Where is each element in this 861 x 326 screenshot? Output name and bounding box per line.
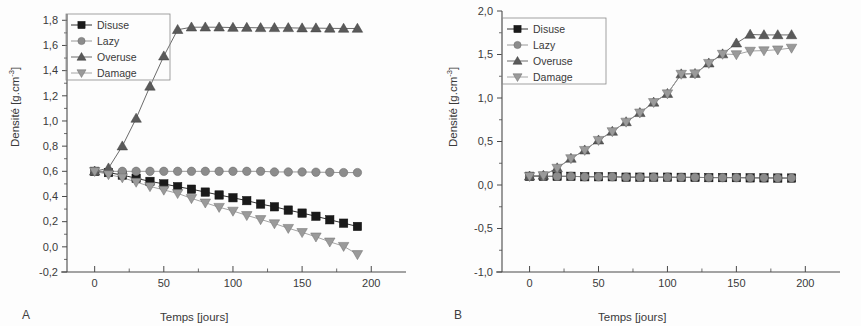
marker-triangle-down [759, 47, 770, 56]
x-tick-label: 50 [592, 277, 604, 289]
marker-circle [732, 173, 740, 181]
marker-circle [663, 173, 671, 181]
y-tick-label: 0,6 [43, 165, 58, 177]
y-tick-label: -0,2 [39, 266, 58, 278]
marker-triangle-down [352, 251, 363, 260]
marker-circle [636, 173, 644, 181]
y-tick-label: 0,8 [43, 140, 58, 152]
legend-label-lazy: Lazy [533, 39, 556, 51]
plot-area-a: -0,20,00,20,40,60,81,01,21,41,61,8050100… [0, 0, 430, 326]
marker-triangle-up [731, 38, 742, 47]
marker-triangle-up [283, 23, 294, 32]
marker-square [284, 206, 292, 214]
marker-circle [215, 167, 223, 175]
marker-triangle-up [145, 81, 156, 90]
marker-square [339, 219, 347, 227]
y-tick-label: -1,0 [474, 266, 493, 278]
marker-triangle-down [772, 46, 783, 55]
marker-square [187, 185, 195, 193]
x-axis-title-a: Temps [jours] [160, 311, 228, 323]
marker-triangle-up [772, 30, 783, 39]
marker-triangle-up [745, 29, 756, 38]
marker-triangle-up [228, 22, 239, 31]
marker-circle [774, 174, 782, 182]
x-tick-label: 50 [158, 277, 170, 289]
legend-label-damage: Damage [97, 67, 137, 79]
marker-triangle-down [311, 233, 322, 242]
marker-triangle-up [77, 53, 86, 61]
marker-circle [705, 173, 713, 181]
marker-circle [514, 41, 521, 48]
y-axis-title-a: Densité [g.cm-3] [7, 27, 21, 187]
marker-circle [760, 174, 768, 182]
y-axis-title-b: Densité [g.cm-3] [445, 27, 459, 187]
series-line-overuse [95, 27, 358, 171]
marker-triangle-down [269, 220, 280, 229]
legend-label-lazy: Lazy [97, 35, 120, 47]
x-tick-label: 200 [796, 277, 814, 289]
marker-square [298, 209, 306, 217]
y-tick-label: -0,5 [474, 222, 493, 234]
y-tick-label: 1,0 [43, 115, 58, 127]
x-tick-label: 150 [727, 277, 745, 289]
marker-square [201, 188, 209, 196]
marker-triangle-up [325, 23, 336, 32]
marker-circle [201, 167, 209, 175]
marker-circle [173, 167, 181, 175]
marker-circle [78, 37, 85, 44]
y-tick-label: 1,8 [43, 14, 58, 26]
marker-circle [353, 168, 361, 176]
marker-circle [326, 168, 334, 176]
marker-triangle-up [786, 30, 797, 39]
marker-circle [787, 174, 795, 182]
marker-square [256, 200, 264, 208]
y-tick-label: 0,0 [478, 179, 493, 191]
marker-triangle-up [214, 22, 225, 31]
marker-triangle-down [338, 242, 349, 251]
marker-triangle-down [172, 190, 183, 199]
y-tick-label: 0,0 [43, 241, 58, 253]
legend-label-disuse: Disuse [533, 23, 565, 35]
x-tick-label: 200 [362, 277, 380, 289]
marker-circle [677, 173, 685, 181]
x-tick-label: 150 [293, 277, 311, 289]
y-tick-label: 0,5 [478, 135, 493, 147]
x-tick-label: 0 [527, 277, 533, 289]
panel-label-b: B [454, 308, 463, 322]
marker-triangle-down [77, 70, 86, 78]
panel-label-a: A [22, 308, 31, 322]
legend: DisuseLazyOveruseDamage [66, 14, 170, 80]
y-tick-label: 1,4 [43, 64, 58, 76]
marker-circle [339, 168, 347, 176]
marker-square [229, 194, 237, 202]
marker-circle [243, 167, 251, 175]
legend-label-disuse: Disuse [97, 19, 129, 31]
marker-triangle-down [731, 51, 742, 60]
marker-triangle-up [513, 57, 522, 65]
series-markers-overuse [524, 29, 796, 180]
y-tick-label: 0,2 [43, 215, 58, 227]
marker-circle [298, 168, 306, 176]
marker-circle [160, 167, 168, 175]
legend-label-overuse: Overuse [97, 51, 137, 63]
series-markers-overuse [89, 22, 362, 175]
marker-square [78, 21, 85, 28]
y-tick-label: 0,4 [43, 190, 58, 202]
marker-triangle-up [242, 22, 253, 31]
marker-circle [608, 173, 616, 181]
marker-triangle-up [255, 23, 266, 32]
x-tick-label: 0 [92, 277, 98, 289]
x-axis-title-b: Temps [jours] [598, 311, 666, 323]
marker-square [215, 191, 223, 199]
marker-circle [187, 167, 195, 175]
marker-triangle-up [759, 30, 770, 39]
marker-circle [594, 173, 602, 181]
marker-triangle-up [269, 23, 280, 32]
marker-circle [649, 173, 657, 181]
marker-circle [270, 168, 278, 176]
marker-triangle-up [131, 113, 142, 122]
marker-circle [312, 168, 320, 176]
marker-square [243, 196, 251, 204]
marker-circle [622, 173, 630, 181]
figure-container: -0,20,00,20,40,60,81,01,21,41,61,8050100… [0, 0, 861, 326]
